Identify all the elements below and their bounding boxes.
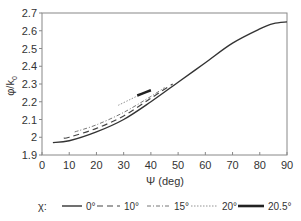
y-tick-label: 2.7 [22, 7, 37, 19]
y-tick-label: 2.4 [22, 60, 37, 72]
x-tick-label: 60 [199, 159, 211, 171]
y-tick-label: 1.9 [22, 149, 37, 161]
data-lines [53, 22, 287, 143]
series-line-10 [64, 84, 173, 138]
y-tick-label: 2.5 [22, 43, 37, 55]
x-tick-label: 80 [254, 159, 266, 171]
legend-label: 10° [124, 201, 139, 212]
legend-title: χ: [38, 200, 47, 212]
x-tick-label: 70 [226, 159, 238, 171]
y-tick-label: 2.3 [22, 78, 37, 90]
x-tick-label: 90 [281, 159, 293, 171]
x-tick-label: 10 [63, 159, 75, 171]
legend-label: 20° [222, 201, 237, 212]
y-axis-label: φ/k0 [4, 76, 18, 96]
x-tick-label: 30 [118, 159, 130, 171]
x-tick-label: 40 [145, 159, 157, 171]
legend-label: 0° [86, 201, 96, 212]
legend: χ:0°10°15°20°20.5° [38, 200, 291, 212]
legend-label: 15° [174, 201, 189, 212]
line-chart: 1.922.12.22.32.42.52.62.7010203040506070… [0, 0, 301, 221]
x-axis-label: Ψ (deg) [146, 175, 184, 187]
y-tick-label: 2 [31, 131, 37, 143]
axes: 1.922.12.22.32.42.52.62.7010203040506070… [22, 7, 293, 171]
y-tick-label: 2.6 [22, 25, 37, 37]
series-line-0 [53, 22, 287, 143]
y-tick-label: 2.2 [22, 96, 37, 108]
chart-container: 1.922.12.22.32.42.52.62.7010203040506070… [0, 0, 301, 221]
x-tick-label: 20 [90, 159, 102, 171]
y-tick-label: 2.1 [22, 114, 37, 126]
legend-label: 20.5° [268, 201, 291, 212]
x-tick-label: 0 [39, 159, 45, 171]
series-line-20.5 [137, 90, 151, 95]
series-line-15 [75, 88, 165, 132]
x-tick-label: 50 [172, 159, 184, 171]
